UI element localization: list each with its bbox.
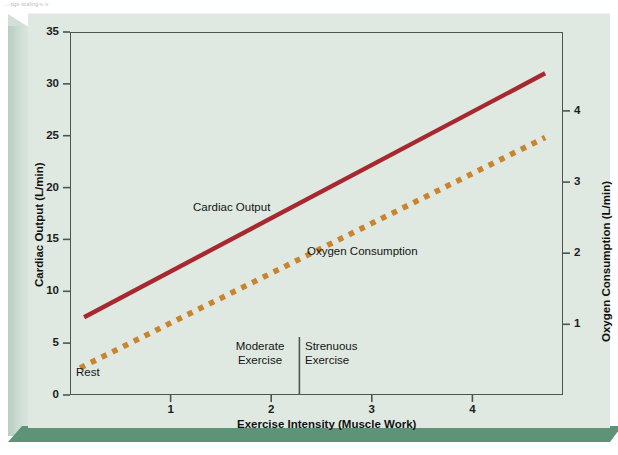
slab-left-edge — [8, 26, 30, 436]
zone-label-strenuous-line2: Exercise — [305, 354, 371, 368]
x-axis-title: Exercise Intensity (Muscle Work) — [237, 418, 416, 430]
figure-root: ...-pgs-scaling-v.-v — [0, 0, 618, 455]
left-tick-35: 35 — [31, 25, 59, 37]
bottom-tick-1: 1 — [159, 403, 183, 415]
y-axis-title-left: Cardiac Output (L/min) — [33, 162, 45, 287]
left-tick-25: 25 — [31, 129, 59, 141]
left-tick-5: 5 — [31, 336, 59, 348]
y-axis-title-right: Oxygen Consumption (L/min) — [600, 181, 612, 342]
right-tick-4: 4 — [574, 104, 602, 116]
bottom-tick-3: 3 — [360, 403, 384, 415]
zone-label-strenuous-line1: Strenuous — [305, 340, 371, 354]
zone-label-moderate: Moderate Exercise — [228, 340, 292, 367]
zone-label-rest: Rest — [76, 366, 100, 380]
zone-label-moderate-line1: Moderate — [228, 340, 292, 354]
right-tick-1: 1 — [574, 317, 602, 329]
left-tick-0: 0 — [31, 388, 59, 400]
zone-label-strenuous: Strenuous Exercise — [305, 340, 371, 367]
series-label-oxygen-consumption: Oxygen Consumption — [307, 245, 418, 257]
series-label-cardiac-output: Cardiac Output — [193, 201, 270, 213]
right-tick-2: 2 — [574, 246, 602, 258]
left-tick-30: 30 — [31, 77, 59, 89]
right-tick-3: 3 — [574, 175, 602, 187]
bottom-tick-4: 4 — [460, 403, 484, 415]
bottom-tick-2: 2 — [259, 403, 283, 415]
copyright-strip: ...-pgs-scaling-v.-v — [4, 1, 154, 8]
zone-label-moderate-line2: Exercise — [228, 354, 292, 368]
